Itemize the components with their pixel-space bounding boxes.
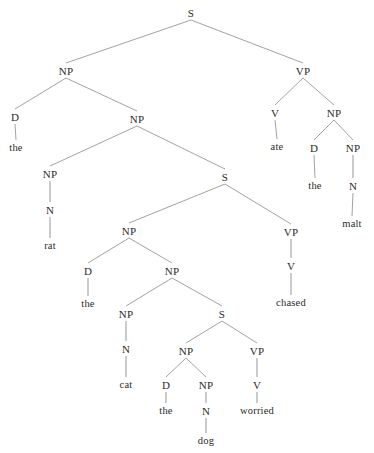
tree-node-d: D [162, 380, 170, 391]
syntax-tree-diagram: SNPVPDNPtheVNPateDNPtheNmaltNPSNratNPVPD… [0, 0, 374, 453]
tree-node-vp: VP [296, 66, 310, 77]
tree-edge [222, 321, 257, 343]
tree-node-np: NP [199, 380, 213, 391]
tree-terminal-malt: malt [342, 219, 361, 230]
tree-node-s: S [219, 309, 225, 320]
tree-edge [172, 278, 222, 306]
tree-edge [186, 358, 206, 377]
tree-node-vp: VP [284, 227, 298, 238]
tree-node-np: NP [346, 143, 360, 154]
tree-edge [66, 78, 137, 111]
tree-node-np: NP [59, 66, 73, 77]
tree-edge [314, 155, 315, 178]
tree-terminal-the: the [9, 143, 22, 154]
tree-node-v: V [287, 261, 295, 272]
tree-node-n: N [349, 181, 357, 192]
tree-terminal-worried: worried [240, 406, 274, 417]
tree-edge [129, 184, 225, 223]
tree-terminal-dog: dog [198, 436, 214, 447]
tree-node-vp: VP [250, 346, 264, 357]
tree-node-np: NP [43, 169, 57, 180]
tree-edge [303, 78, 334, 105]
tree-node-np: NP [119, 309, 133, 320]
tree-terminal-cat: cat [120, 380, 133, 391]
tree-node-np: NP [327, 108, 341, 119]
tree-node-np: NP [122, 226, 136, 237]
tree-edge [314, 120, 334, 140]
tree-edge [275, 120, 277, 139]
tree-node-s: S [188, 8, 194, 19]
tree-edge [15, 78, 66, 109]
tree-edge [50, 126, 137, 166]
tree-terminal-ate: ate [271, 142, 284, 153]
tree-node-n: N [46, 205, 54, 216]
tree-node-v: V [253, 380, 261, 391]
tree-edge [352, 193, 353, 216]
tree-edge [166, 358, 186, 377]
tree-edge [225, 184, 291, 224]
tree-terminal-rat: rat [44, 241, 56, 252]
tree-edge [186, 321, 222, 343]
tree-edge-layer [0, 0, 374, 453]
tree-node-np: NP [165, 266, 179, 277]
tree-node-np: NP [130, 114, 144, 125]
tree-terminal-the: the [159, 406, 172, 417]
tree-terminal-chased: chased [276, 298, 306, 309]
tree-node-np: NP [179, 346, 193, 357]
tree-edge [88, 238, 129, 263]
tree-edge [137, 126, 225, 169]
tree-edge [191, 20, 303, 63]
tree-edge [15, 124, 16, 140]
tree-node-n: N [122, 344, 130, 355]
tree-edge [334, 120, 353, 140]
tree-edge [126, 278, 172, 306]
tree-terminal-the: the [81, 299, 94, 310]
tree-terminal-the: the [308, 181, 321, 192]
tree-node-s: S [222, 172, 228, 183]
tree-edge [129, 238, 172, 263]
tree-node-d: D [310, 143, 318, 154]
tree-node-n: N [202, 406, 210, 417]
tree-node-d: D [11, 112, 19, 123]
tree-node-v: V [271, 108, 279, 119]
tree-node-d: D [84, 266, 92, 277]
tree-edge [275, 78, 303, 105]
tree-edge [66, 20, 191, 63]
